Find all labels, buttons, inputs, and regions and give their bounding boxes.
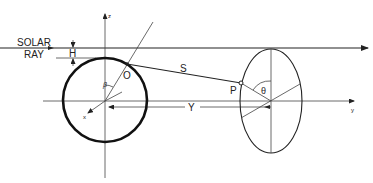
solar-label-line2: RAY xyxy=(24,49,44,60)
x-axis-label: x xyxy=(83,114,86,120)
point-p xyxy=(239,81,243,85)
beta-label: β xyxy=(102,81,107,89)
y-axis-label: y xyxy=(351,107,354,113)
diagram-canvas: SOLAR RAY H O S P Y θ β z y x xyxy=(0,0,373,183)
theta-label: θ xyxy=(261,86,266,96)
s-label: S xyxy=(180,63,187,74)
ellipse-radius-to-p xyxy=(241,83,271,101)
y-dimension-label: Y xyxy=(188,102,195,113)
h-label: H xyxy=(69,48,76,59)
y-dimension-arrowhead-icon xyxy=(264,105,270,109)
z-axis-label: z xyxy=(108,13,111,19)
x-axis xyxy=(88,101,105,113)
p-label: P xyxy=(230,85,237,96)
o-label: O xyxy=(123,70,131,81)
solar-label-line1: SOLAR xyxy=(17,37,51,48)
